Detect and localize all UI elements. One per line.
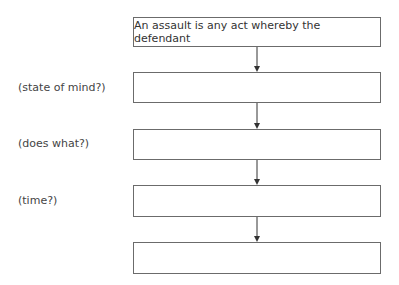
flow-box-5 xyxy=(133,242,381,274)
flow-box-1: An assault is any act whereby the defend… xyxy=(133,17,381,47)
label-time: (time?) xyxy=(18,194,57,207)
label-state-of-mind: (state of mind?) xyxy=(18,81,106,94)
flow-box-1-text: An assault is any act whereby the defend… xyxy=(134,19,380,45)
flow-box-3 xyxy=(133,129,381,160)
flow-box-2 xyxy=(133,72,381,103)
flow-box-4 xyxy=(133,185,381,217)
label-does-what: (does what?) xyxy=(18,137,89,150)
